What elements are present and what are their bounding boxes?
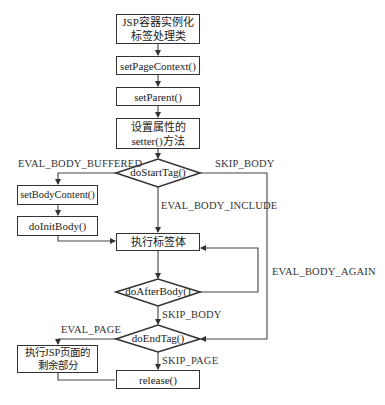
node-set-body-content-label: setBodyContent() (20, 188, 95, 202)
do-after-body-label: doAfterBody() (116, 285, 200, 298)
node-set-page-context-label: setPageContext() (120, 59, 196, 73)
edge-label-eval-body-include: EVAL_BODY_INCLUDE (161, 200, 277, 212)
node-exec-rest-line1: 执行JSP页面的 (25, 346, 91, 359)
edge-label-eval-body-again: EVAL_BODY_AGAIN (272, 266, 376, 278)
node-do-init-body-label: doInitBody() (29, 219, 86, 233)
node-set-parent: setParent() (116, 87, 200, 106)
node-instantiate-line1: JSP容器实例化 (122, 15, 194, 29)
node-release-label: release() (139, 373, 177, 387)
edge-label-skip-page: SKIP_PAGE (162, 355, 218, 367)
node-exec-body-label: 执行标签体 (131, 235, 186, 249)
edge-label-eval-page: EVAL_PAGE (61, 324, 121, 336)
node-instantiate-line2: 标签处理类 (131, 29, 186, 43)
node-set-parent-label: setParent() (134, 90, 182, 104)
node-set-page-context: setPageContext() (116, 56, 200, 75)
node-setters-line1: 设置属性的 (131, 120, 186, 134)
do-end-tag-label: doEndTag() (116, 332, 200, 345)
node-release: release() (116, 370, 200, 389)
edge-label-skip-body-after: SKIP_BODY (162, 309, 222, 321)
node-set-body-content: setBodyContent() (17, 185, 98, 205)
node-exec-rest-of-page: 执行JSP页面的 剩余部分 (17, 345, 98, 373)
node-do-init-body: doInitBody() (17, 216, 98, 236)
node-exec-rest-line2: 剩余部分 (38, 359, 78, 372)
edge-label-skip-body-start: SKIP_BODY (215, 158, 275, 170)
edge-label-eval-body-buffered: EVAL_BODY_BUFFERED (18, 158, 142, 170)
node-setters: 设置属性的 setter()方法 (116, 118, 200, 149)
node-exec-body: 执行标签体 (116, 233, 200, 251)
node-instantiate-tag-handler: JSP容器实例化 标签处理类 (116, 14, 200, 44)
node-setters-line2: setter()方法 (131, 134, 184, 148)
